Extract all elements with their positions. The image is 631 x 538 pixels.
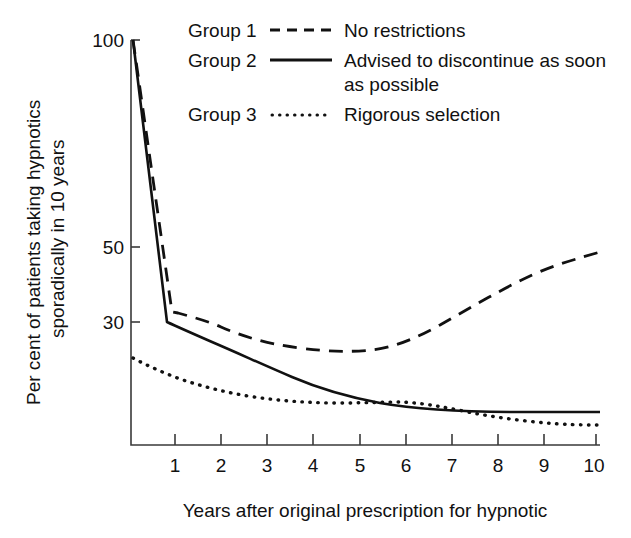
legend-desc-group-3: Rigorous selection (344, 104, 500, 125)
y-axis-label-line2: sporadically in 10 years (47, 139, 68, 338)
x-tick-label-7: 7 (447, 455, 458, 476)
legend-desc-group-1: No restrictions (344, 20, 465, 41)
y-tick-label-50: 50 (103, 237, 124, 258)
legend-desc-group-2-line1: Advised to discontinue as soon (344, 50, 606, 71)
legend-label-group-1: Group 1 (188, 20, 257, 41)
x-tick-label-2: 2 (216, 455, 227, 476)
x-tick-label-9: 9 (539, 455, 550, 476)
x-tick-labels: 1 2 3 4 5 6 7 8 9 10 (170, 455, 605, 476)
x-tick-label-10: 10 (583, 455, 604, 476)
x-tick-label-5: 5 (355, 455, 366, 476)
legend-row-group-2: Group 2 Advised to discontinue as soon a… (188, 50, 606, 95)
axis-titles: Per cent of patients taking hypnotics sp… (23, 100, 547, 521)
series-line-group-2 (133, 40, 600, 412)
chart-legend: Group 1 No restrictions Group 2 Advised … (188, 20, 606, 125)
legend-row-group-1: Group 1 No restrictions (188, 20, 465, 41)
y-tick-label-30: 30 (103, 312, 124, 333)
legend-label-group-2: Group 2 (188, 50, 257, 71)
series-group (133, 40, 600, 425)
chart-figure: 100 50 30 1 2 3 4 5 6 7 8 9 10 Per cent … (0, 0, 631, 538)
x-tick-label-6: 6 (401, 455, 412, 476)
y-axis-label-line1: Per cent of patients taking hypnotics (23, 100, 44, 405)
legend-desc-group-2-line2: as possible (344, 74, 439, 95)
x-axis-label: Years after original prescription for hy… (183, 500, 548, 521)
x-tick-label-4: 4 (308, 455, 319, 476)
legend-row-group-3: Group 3 Rigorous selection (188, 104, 500, 125)
x-tick-label-3: 3 (262, 455, 273, 476)
y-tick-label-100: 100 (92, 30, 124, 51)
x-tick-label-8: 8 (493, 455, 504, 476)
y-tick-labels: 100 50 30 (92, 30, 124, 333)
legend-label-group-3: Group 3 (188, 104, 257, 125)
x-tick-label-1: 1 (170, 455, 181, 476)
series-line-group-3 (133, 358, 600, 425)
chart-canvas: 100 50 30 1 2 3 4 5 6 7 8 9 10 Per cent … (0, 0, 631, 538)
